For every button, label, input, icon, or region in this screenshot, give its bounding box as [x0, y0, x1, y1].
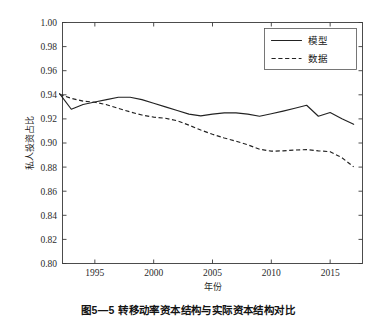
figure-caption: 图5—5 转移动率资本结构与实际资本结构对比	[0, 302, 376, 316]
x-tick-label: 2015	[321, 268, 340, 278]
y-tick-label: 0.80	[40, 259, 57, 269]
legend-label-2: 数据	[308, 53, 328, 64]
x-tick-label: 2000	[144, 268, 163, 278]
y-tick-label: 0.96	[40, 66, 57, 76]
figure-container: 0.800.820.840.860.880.900.920.940.960.98…	[0, 0, 376, 316]
series-line-1	[60, 94, 354, 125]
legend-label-1: 模型	[308, 35, 328, 46]
y-tick-label: 0.84	[40, 211, 57, 221]
y-tick-label: 0.88	[40, 163, 57, 173]
x-tick-label: 2005	[203, 268, 222, 278]
y-tick-label: 0.90	[40, 138, 57, 148]
y-tick-label: 0.98	[40, 42, 57, 52]
x-axis-title: 年份	[204, 281, 222, 292]
series-line-2	[60, 94, 354, 167]
x-tick-label: 1995	[85, 268, 104, 278]
line-chart: 0.800.820.840.860.880.900.920.940.960.98…	[0, 0, 376, 316]
y-tick-label: 0.94	[40, 90, 57, 100]
x-tick-label: 2010	[262, 268, 281, 278]
y-tick-label: 0.92	[40, 114, 57, 124]
y-axis-title: 私人投资占比	[24, 116, 35, 170]
y-tick-label: 0.86	[40, 187, 57, 197]
y-tick-label: 1.00	[40, 18, 57, 28]
y-tick-label: 0.82	[40, 235, 57, 245]
